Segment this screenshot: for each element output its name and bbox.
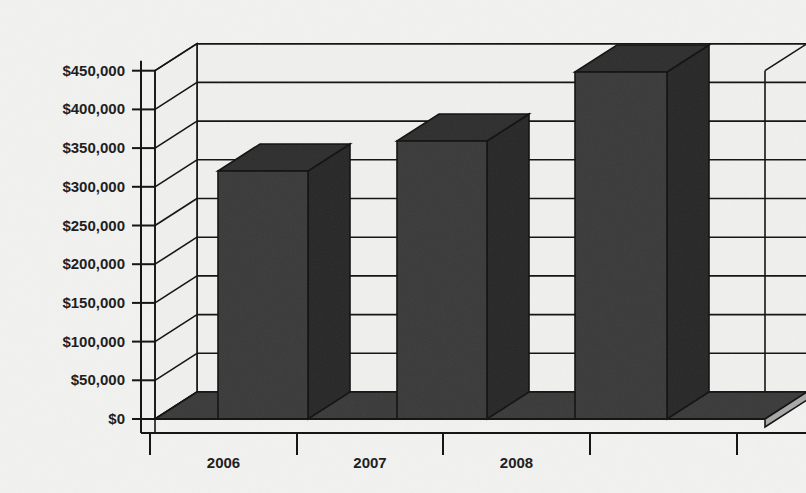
y-tick-label: $200,000	[62, 255, 125, 272]
x-tick-label-2007: 2007	[353, 454, 386, 471]
bar-2008	[575, 45, 709, 419]
y-tick-label: $150,000	[62, 294, 125, 311]
left-wall	[155, 44, 197, 419]
bar-front-face	[218, 171, 308, 419]
bar-2007	[397, 114, 529, 419]
y-tick-label: $0	[108, 410, 125, 427]
x-tick-label-2008: 2008	[500, 454, 533, 471]
bar-side-face	[487, 114, 529, 419]
bar-2006	[218, 144, 350, 419]
bar-front-face	[575, 72, 667, 419]
y-tick-label: $400,000	[62, 100, 125, 117]
y-tick-label: $100,000	[62, 333, 125, 350]
bar-front-face	[397, 141, 487, 419]
bar-side-face	[308, 144, 350, 419]
y-tick-label: $350,000	[62, 139, 125, 156]
y-tick-label: $50,000	[71, 371, 125, 388]
bar-side-face	[667, 45, 709, 419]
y-tick-label: $250,000	[62, 217, 125, 234]
x-tick-label-2006: 2006	[207, 454, 240, 471]
chart-container: $450,000$400,000$350,000$300,000$250,000…	[0, 0, 806, 493]
y-tick-label: $300,000	[62, 178, 125, 195]
bar-chart-3d: $450,000$400,000$350,000$300,000$250,000…	[0, 0, 806, 493]
y-tick-label: $450,000	[62, 62, 125, 79]
